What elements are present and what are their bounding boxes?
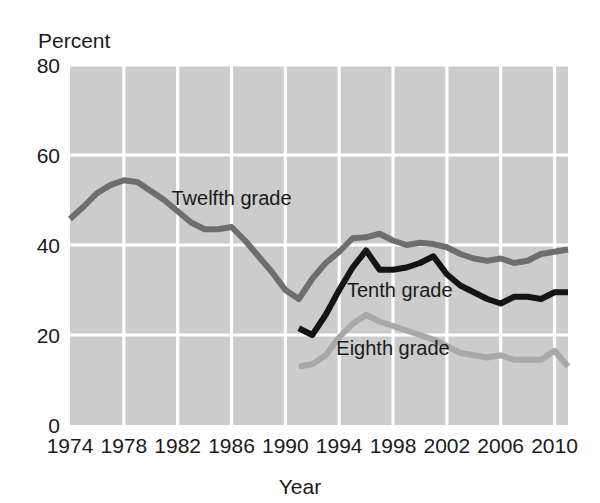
y-axis-title: Percent bbox=[38, 29, 111, 52]
y-tick-label: 20 bbox=[37, 324, 60, 347]
y-tick-label: 60 bbox=[37, 144, 60, 167]
x-tick-label: 1982 bbox=[154, 434, 201, 457]
x-tick-label: 1994 bbox=[316, 434, 363, 457]
series-label: Eighth grade bbox=[336, 337, 449, 359]
line-chart: 020406080 197419781982198619901994199820… bbox=[0, 0, 600, 503]
x-tick-label: 1974 bbox=[47, 434, 94, 457]
x-tick-label: 2002 bbox=[424, 434, 471, 457]
x-tick-label: 2010 bbox=[531, 434, 578, 457]
x-axis-title: Year bbox=[279, 475, 321, 498]
chart-svg: 020406080 197419781982198619901994199820… bbox=[0, 0, 600, 503]
x-tick-label: 2006 bbox=[477, 434, 524, 457]
x-tick-label: 1986 bbox=[208, 434, 255, 457]
x-tick-label: 1978 bbox=[100, 434, 147, 457]
y-tick-label: 40 bbox=[37, 234, 60, 257]
series-label: Twelfth grade bbox=[171, 187, 291, 209]
x-tick-label: 1998 bbox=[370, 434, 417, 457]
series-label: Tenth grade bbox=[347, 279, 453, 301]
y-tick-label: 80 bbox=[37, 54, 60, 77]
x-tick-label: 1990 bbox=[262, 434, 309, 457]
